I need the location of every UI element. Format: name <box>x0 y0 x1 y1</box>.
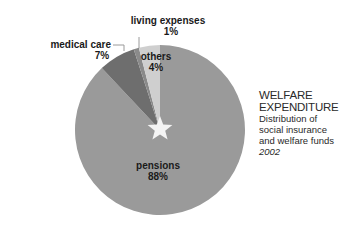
label-others: others <box>141 51 172 62</box>
value-others: 4% <box>149 62 164 73</box>
label-living-expenses: living expenses <box>131 15 206 26</box>
value-medical-care: 7% <box>95 50 110 61</box>
value-pensions: 88% <box>148 171 168 182</box>
label-pensions: pensions <box>136 160 180 171</box>
chart-title-text: WELFARE EXPENDITURE <box>259 89 329 113</box>
value-living-expenses: 1% <box>164 26 179 37</box>
chart-title: WELFARE EXPENDITURE <box>259 89 339 113</box>
chart-subtitle: Distribution of social insurance and wel… <box>259 113 339 146</box>
chart-year: 2002 <box>259 146 339 157</box>
chart-title-block: WELFARE EXPENDITURE Distribution of soci… <box>259 89 339 157</box>
label-medical-care: medical care <box>50 39 111 50</box>
leader-medical-care <box>113 45 124 51</box>
